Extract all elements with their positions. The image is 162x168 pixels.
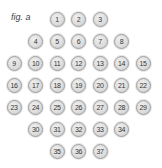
ball-14: 14 [114,56,129,71]
ball-23: 23 [7,100,22,115]
ball-36: 36 [71,144,86,159]
ball-34: 34 [114,122,129,137]
ball-32: 32 [71,122,86,137]
ball-33: 33 [93,122,108,137]
ball-11: 11 [50,56,65,71]
ball-24: 24 [28,100,43,115]
ball-16: 16 [7,78,22,93]
ball-15: 15 [136,56,151,71]
ball-37: 37 [93,144,108,159]
ball-10: 10 [28,56,43,71]
ball-21: 21 [114,78,129,93]
ball-28: 28 [114,100,129,115]
ball-2: 2 [71,12,86,27]
ball-13: 13 [93,56,108,71]
ball-17: 17 [28,78,43,93]
ball-8: 8 [114,34,129,49]
ball-26: 26 [71,100,86,115]
ball-27: 27 [93,100,108,115]
ball-20: 20 [93,78,108,93]
ball-6: 6 [71,34,86,49]
ball-31: 31 [50,122,65,137]
ball-3: 3 [93,12,108,27]
ball-18: 18 [50,78,65,93]
ball-5: 5 [50,34,65,49]
ball-19: 19 [71,78,86,93]
ball-29: 29 [136,100,151,115]
figure-label: fig. a [11,12,31,22]
ball-30: 30 [28,122,43,137]
ball-9: 9 [7,56,22,71]
ball-4: 4 [28,34,43,49]
ball-35: 35 [50,144,65,159]
ball-12: 12 [71,56,86,71]
ball-7: 7 [93,34,108,49]
ball-22: 22 [136,78,151,93]
ball-25: 25 [50,100,65,115]
ball-1: 1 [50,12,65,27]
